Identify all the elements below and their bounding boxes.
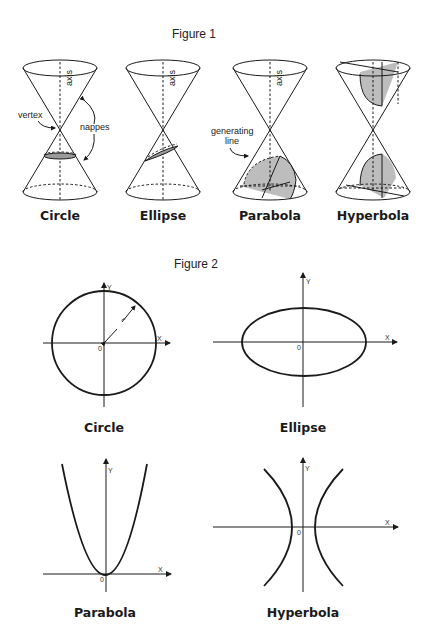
- plot-ellipse: Y X 0 Ellipse: [213, 273, 397, 435]
- x-axis-label: X: [385, 519, 390, 526]
- caption-parabola: Parabola: [239, 208, 301, 223]
- caption-circle: Circle: [40, 208, 80, 223]
- cone-circle: axis vertex nappes Circle: [18, 60, 110, 223]
- generating-line-label-2: line: [225, 136, 239, 146]
- caption-circle-plot: Circle: [84, 420, 124, 435]
- origin-label: 0: [98, 345, 102, 352]
- radius-label: r: [120, 316, 127, 323]
- y-axis-label: Y: [107, 284, 112, 291]
- x-axis-label: X: [158, 566, 163, 573]
- caption-parabola-plot: Parabola: [74, 605, 136, 620]
- nappes-label: nappes: [80, 122, 110, 132]
- generating-line-label-1: generating: [211, 126, 254, 136]
- caption-ellipse-plot: Ellipse: [280, 420, 326, 435]
- cone-parabola: axis generating line Parabola: [211, 60, 307, 223]
- plot-circle: Y X 0 r Circle: [43, 283, 170, 435]
- figure-1-title: Figure 1: [172, 27, 216, 41]
- x-axis-label: X: [157, 335, 162, 342]
- caption-hyperbola: Hyperbola: [337, 208, 409, 223]
- plot-parabola: Y X 0 Parabola: [43, 459, 171, 620]
- axis-label: axis: [64, 69, 74, 86]
- origin-label: 0: [297, 529, 301, 536]
- cone-hyperbola: Hyperbola: [336, 60, 410, 223]
- conic-sections-diagram: Figure 1 axis vertex nappes Circle axis …: [0, 0, 424, 629]
- y-axis-label: Y: [305, 465, 310, 472]
- origin-label: 0: [100, 576, 104, 583]
- figure-2-title: Figure 2: [174, 257, 218, 271]
- caption-hyperbola-plot: Hyperbola: [267, 605, 339, 620]
- x-axis-label: X: [385, 334, 390, 341]
- axis-label-2: axis: [167, 69, 177, 86]
- y-axis-label: Y: [306, 278, 311, 285]
- axis-label-3: axis: [274, 69, 284, 86]
- caption-ellipse: Ellipse: [140, 208, 186, 223]
- plot-hyperbola: Y X 0 Hyperbola: [213, 458, 398, 620]
- cone-ellipse: axis Ellipse: [126, 60, 200, 223]
- vertex-label: vertex: [18, 110, 43, 120]
- y-axis-label: Y: [108, 467, 113, 474]
- origin-label: 0: [297, 344, 301, 351]
